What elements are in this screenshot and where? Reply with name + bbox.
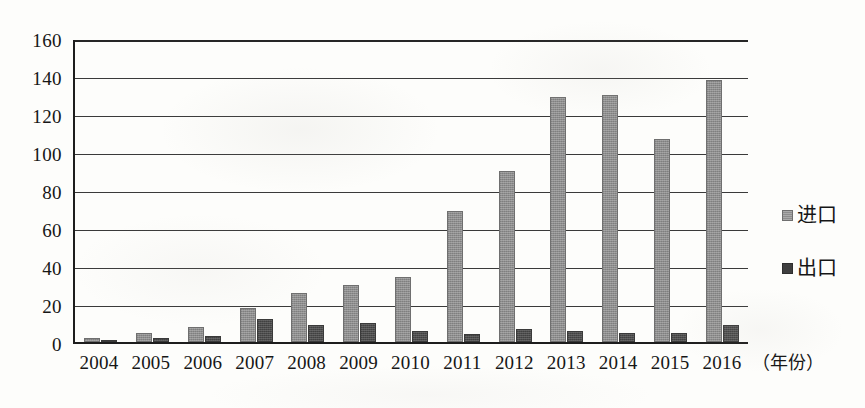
bar-group (386, 40, 438, 342)
bar-export (153, 338, 169, 342)
legend-entry: 出口 (782, 258, 860, 278)
bar-group (489, 40, 541, 342)
x-axis-tick-label: 2012 (488, 352, 540, 378)
bar-export (308, 325, 324, 342)
x-axis-tick-label: 2008 (281, 352, 333, 378)
x-axis-tick-label: 2011 (436, 352, 488, 378)
chart-page: 020406080100120140160 200420052006200720… (0, 0, 865, 408)
export-swatch-icon (782, 263, 793, 274)
bar-import (84, 338, 100, 342)
y-axis-tick-label: 40 (6, 259, 62, 278)
bar-import (188, 327, 204, 342)
y-axis-tick-label: 140 (6, 69, 62, 88)
bar-export (516, 329, 532, 342)
legend-entry: 进口 (782, 205, 860, 225)
bar-import (343, 285, 359, 342)
x-axis-tick-label: 2016 (696, 352, 748, 378)
x-axis-tick-label: 2005 (125, 352, 177, 378)
bar-import (136, 333, 152, 343)
legend-label: 进口 (797, 205, 837, 225)
x-axis-tick-label: 2013 (540, 352, 592, 378)
y-axis-tick-label: 20 (6, 297, 62, 316)
bar-group (593, 40, 645, 342)
y-axis-tick-label: 160 (6, 31, 62, 50)
x-axis-tick-label: 2004 (73, 352, 125, 378)
bar-export (723, 325, 739, 342)
bar-group (230, 40, 282, 342)
bar-export (360, 323, 376, 342)
bar-export (205, 336, 221, 342)
y-axis-tick-label: 80 (6, 183, 62, 202)
legend-label: 出口 (797, 258, 837, 278)
plot-area (73, 40, 748, 344)
bar-group (334, 40, 386, 342)
y-axis-tick-label: 100 (6, 145, 62, 164)
bar-export (257, 319, 273, 342)
bar-group (437, 40, 489, 342)
x-axis-tick-label: 2009 (333, 352, 385, 378)
bar-group (127, 40, 179, 342)
x-axis-tick-label: 2014 (592, 352, 644, 378)
bar-import (499, 171, 515, 342)
x-axis-tick-label: 2015 (644, 352, 696, 378)
x-axis-tick-labels: 2004200520062007200820092010201120122013… (73, 352, 748, 378)
y-axis-tick-labels: 020406080100120140160 (6, 28, 62, 358)
bar-export (567, 331, 583, 342)
bar-group (179, 40, 231, 342)
bar-import (602, 95, 618, 342)
bar-group (541, 40, 593, 342)
chart-legend: 进口出口 (782, 205, 860, 311)
bar-group (75, 40, 127, 342)
y-axis-tick-label: 60 (6, 221, 62, 240)
x-axis-title: （年份） (752, 352, 824, 374)
bars-layer (75, 40, 748, 342)
x-axis-tick-label: 2010 (385, 352, 437, 378)
bar-export (101, 340, 117, 342)
bar-group (644, 40, 696, 342)
bar-import (447, 211, 463, 342)
y-axis-tick-label: 120 (6, 107, 62, 126)
import-swatch-icon (782, 210, 793, 221)
bar-import (291, 293, 307, 342)
x-axis-tick-label: 2007 (229, 352, 281, 378)
x-axis-tick-label: 2006 (177, 352, 229, 378)
bar-group (282, 40, 334, 342)
bar-export (619, 333, 635, 343)
bar-import (706, 80, 722, 342)
bar-import (550, 97, 566, 342)
bar-export (412, 331, 428, 342)
bar-import (654, 139, 670, 342)
bar-import (240, 308, 256, 342)
bar-export (464, 334, 480, 342)
bar-group (696, 40, 748, 342)
bar-import (395, 277, 411, 342)
y-axis-tick-label: 0 (6, 335, 62, 354)
bar-export (671, 333, 687, 343)
